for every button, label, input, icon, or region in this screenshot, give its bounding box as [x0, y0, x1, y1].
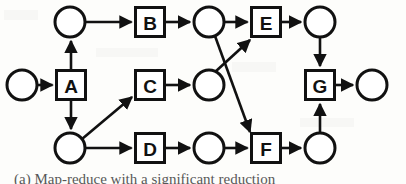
edge-bottom-circle-to-c: [82, 97, 132, 139]
edge-circle-to-e-diagonal: [215, 40, 250, 72]
circle-node-top[interactable]: [55, 7, 85, 37]
figure-caption: (a) Map-reduce with a significant reduct…: [14, 171, 275, 184]
task-node-f[interactable]: F: [252, 134, 281, 163]
task-node-e-label: E: [260, 13, 273, 34]
task-node-a[interactable]: A: [57, 71, 86, 100]
task-node-b[interactable]: B: [136, 8, 165, 37]
circle-node-after-d[interactable]: [194, 133, 224, 163]
task-node-g-label: G: [313, 76, 328, 97]
task-node-d[interactable]: D: [136, 134, 165, 163]
task-node-c[interactable]: C: [136, 71, 165, 100]
task-node-d-label: D: [143, 139, 157, 160]
task-node-c-label: C: [143, 76, 157, 97]
figure-container: A B C D E F G (a) Map-reduce with a sign…: [0, 0, 406, 184]
circle-node-after-f[interactable]: [305, 133, 335, 163]
dag-diagram: A B C D E F G: [0, 0, 406, 184]
task-node-f-label: F: [260, 139, 272, 160]
task-node-e[interactable]: E: [252, 8, 281, 37]
task-node-b-label: B: [143, 13, 157, 34]
circle-node-bottom[interactable]: [55, 133, 85, 163]
circle-node-after-c[interactable]: [194, 70, 224, 100]
circle-node-end[interactable]: [357, 70, 387, 100]
circle-node-after-e[interactable]: [305, 7, 335, 37]
task-node-g[interactable]: G: [306, 71, 335, 100]
task-node-a-label: A: [64, 76, 78, 97]
circle-node-after-b[interactable]: [194, 7, 224, 37]
circle-node-start[interactable]: [7, 70, 37, 100]
